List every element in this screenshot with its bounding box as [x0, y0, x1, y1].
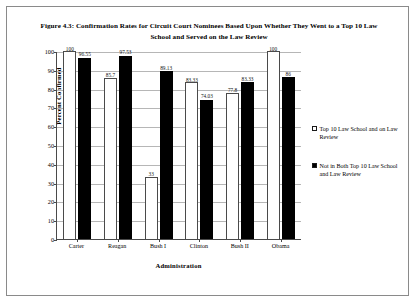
- bar-value-label: 97.53: [120, 49, 132, 55]
- bar-value-label: 33: [149, 171, 154, 177]
- bar-group: 83.3374.03: [179, 52, 220, 239]
- bar-value-label: 100: [66, 46, 74, 52]
- x-tick-label: Bush II: [219, 243, 260, 249]
- y-tick-label: 60: [20, 124, 54, 130]
- bar[interactable]: 85.7: [104, 78, 117, 239]
- x-tick-label: Reagan: [97, 243, 138, 249]
- y-tick-label: 100: [20, 49, 54, 55]
- bar-value-label: 83.33: [186, 77, 198, 83]
- bar-group: 85.797.53: [98, 52, 139, 239]
- bar-group: 10096.55: [57, 52, 98, 239]
- bar-value-label: 77.8: [228, 87, 237, 93]
- bar[interactable]: 97.53: [119, 56, 132, 239]
- legend-label: Top 10 Law School and on Law Review: [320, 125, 407, 142]
- bar[interactable]: 89.13: [160, 71, 173, 239]
- y-tick-mark: [54, 240, 57, 241]
- y-tick-label: 10: [20, 218, 54, 224]
- x-tick-mark: [199, 239, 200, 242]
- x-tick-mark: [118, 239, 119, 242]
- bar-value-label: 74.03: [201, 93, 213, 99]
- legend-entry[interactable]: Top 10 Law School and on Law Review: [312, 125, 406, 142]
- x-tick-label: Carter: [56, 243, 97, 249]
- bar-group: 77.883.33: [220, 52, 261, 239]
- bar-value-label: 100: [269, 46, 277, 52]
- x-tick-mark: [281, 239, 282, 242]
- y-tick-label: 90: [20, 68, 54, 74]
- bar-value-label: 85.7: [106, 72, 115, 78]
- bar-groups: 10096.5585.797.533389.1383.3374.0377.883…: [57, 52, 301, 239]
- y-tick-label: 80: [20, 86, 54, 92]
- bar[interactable]: 77.8: [226, 93, 239, 239]
- bar[interactable]: 100: [267, 51, 280, 239]
- bar-group: 10086: [260, 52, 301, 239]
- x-tick-mark: [240, 239, 241, 242]
- bar[interactable]: 83.33: [185, 82, 198, 239]
- bar-value-label: 89.13: [160, 65, 172, 71]
- bar[interactable]: 33: [145, 177, 158, 239]
- y-tick-label: 40: [20, 162, 54, 168]
- y-tick-label: 20: [20, 199, 54, 205]
- x-tick-mark: [159, 239, 160, 242]
- plot-area: Percent Confirmed 0102030405060708090100…: [56, 52, 301, 240]
- bar[interactable]: 100: [63, 51, 76, 239]
- figure-frame: Figure 4.3: Confirmation Rates for Circu…: [6, 6, 409, 296]
- x-tick-mark: [77, 239, 78, 242]
- chart-legend: Top 10 Law School and on Law ReviewNot i…: [312, 125, 406, 199]
- x-axis-ticks: CarterReaganBush IClintonBush IIObama: [56, 243, 301, 249]
- y-tick-label: 0: [20, 237, 54, 243]
- y-tick-label: 30: [20, 180, 54, 186]
- bar-value-label: 86: [286, 71, 291, 77]
- bar-value-label: 96.55: [79, 51, 91, 57]
- chart-title: Figure 4.3: Confirmation Rates for Circu…: [31, 21, 387, 42]
- y-tick-label: 50: [20, 143, 54, 149]
- bar[interactable]: 74.03: [200, 100, 213, 239]
- y-tick-label: 70: [20, 105, 54, 111]
- x-axis-title: Administration: [56, 262, 301, 269]
- x-tick-label: Bush I: [138, 243, 179, 249]
- bar[interactable]: 83.33: [241, 82, 254, 239]
- bar[interactable]: 86: [282, 77, 295, 239]
- legend-swatch-icon: [312, 163, 317, 168]
- x-tick-label: Obama: [260, 243, 301, 249]
- bar-value-label: 83.33: [242, 76, 254, 82]
- legend-swatch-icon: [312, 126, 317, 131]
- bar-group: 3389.13: [138, 52, 179, 239]
- legend-label: Not in Both Top 10 Law School and Law Re…: [320, 162, 407, 179]
- x-tick-label: Clinton: [178, 243, 219, 249]
- legend-entry[interactable]: Not in Both Top 10 Law School and Law Re…: [312, 162, 406, 179]
- bar[interactable]: 96.55: [78, 58, 91, 240]
